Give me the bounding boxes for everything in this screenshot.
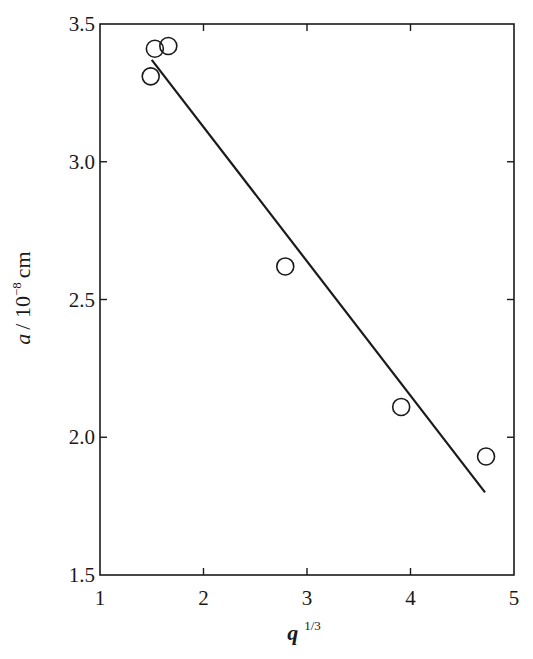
plot-border [100, 24, 514, 575]
data-point-circle [277, 258, 294, 275]
x-tick-label: 3 [302, 586, 313, 610]
y-tick-label: 2.5 [69, 288, 95, 312]
y-tick-label: 2.0 [69, 425, 95, 449]
data-point-circle [478, 448, 495, 465]
scatter-chart: 123451.52.02.53.03.5 q1/3 a/ 10−8cm [0, 0, 533, 659]
regression-line [152, 60, 485, 493]
y-tick-label: 3.0 [69, 150, 95, 174]
fit-line [152, 60, 485, 493]
y-tick-label: 1.5 [69, 563, 95, 587]
data-point-circle [393, 398, 410, 415]
x-tick-label: 2 [198, 586, 209, 610]
data-point-circle [142, 68, 159, 85]
x-tick-label: 5 [509, 586, 520, 610]
data-points [142, 38, 494, 465]
y-axis-label: a/ 10−8cm [9, 251, 35, 344]
axis-tick-labels: 123451.52.02.53.03.5 [69, 12, 520, 610]
y-tick-label: 3.5 [69, 12, 95, 36]
plot-frame [100, 24, 514, 575]
x-tick-label: 1 [95, 586, 106, 610]
axis-ticks [100, 24, 514, 575]
x-axis-label: q1/3 [287, 618, 321, 645]
x-tick-label: 4 [405, 586, 416, 610]
